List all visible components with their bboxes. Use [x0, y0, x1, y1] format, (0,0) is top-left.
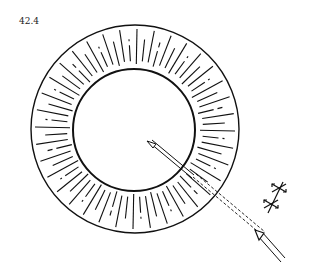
radial-line: [175, 61, 184, 74]
radial-line: [56, 145, 72, 149]
radial-line: [148, 31, 154, 62]
radial-line: [133, 194, 134, 229]
radial-line: [198, 154, 228, 166]
radial-line: [169, 43, 187, 73]
radial-line: [171, 210, 172, 212]
radial-line: [180, 54, 201, 78]
radial-line: [202, 142, 233, 148]
radial-line: [120, 30, 125, 62]
radial-line: [47, 160, 78, 177]
radial-line: [136, 29, 137, 64]
radial-line: [153, 51, 157, 66]
radial-line: [151, 192, 157, 216]
radial-line: [198, 110, 214, 114]
radial-line: [178, 182, 198, 207]
radial-line: [194, 190, 198, 194]
radial-line: [200, 130, 235, 131]
radial-line: [49, 104, 73, 111]
radial-line: [182, 67, 200, 84]
radial-line: [110, 211, 111, 216]
radial-line: [113, 191, 117, 206]
radial-line: [146, 196, 151, 228]
radial-line: [196, 159, 210, 166]
radial-line: [49, 77, 79, 95]
radial-line: [35, 127, 70, 128]
radial-line: [73, 64, 77, 68]
radial-line: [113, 42, 119, 66]
radial-line: [37, 110, 68, 116]
radial-line: [192, 82, 205, 91]
radial-striations: [35, 29, 235, 229]
outer-circle: [31, 25, 239, 233]
radial-line: [82, 200, 83, 202]
radial-line: [45, 134, 67, 135]
radial-line: [116, 196, 122, 227]
radial-line: [140, 197, 141, 213]
radial-line: [208, 79, 210, 80]
polarization-markers: [264, 182, 286, 213]
radial-line: [101, 52, 108, 67]
radial-line: [57, 172, 82, 192]
radial-line: [214, 168, 216, 169]
radial-line: [99, 47, 100, 49]
radial-line: [191, 163, 221, 181]
radial-line: [180, 176, 191, 188]
figure-canvas: 42.4: [0, 0, 325, 273]
radial-line: [203, 123, 225, 124]
radial-line: [192, 81, 223, 98]
radial-line: [60, 63, 84, 84]
radial-line: [70, 174, 88, 191]
radial-line: [188, 66, 213, 86]
radial-line: [52, 120, 68, 122]
radial-line: [125, 197, 127, 219]
radial-line: [197, 147, 221, 154]
radial-line: [87, 41, 104, 72]
radial-line: [187, 56, 188, 58]
radial-line: [48, 149, 53, 150]
ring-diagram: [0, 0, 325, 273]
radial-line: [79, 71, 90, 83]
radial-line: [197, 93, 217, 102]
radial-line: [60, 92, 74, 99]
radial-line: [69, 180, 90, 204]
radial-line: [36, 140, 68, 145]
radial-line: [54, 89, 56, 90]
radial-line: [99, 192, 111, 222]
radial-line: [53, 157, 73, 166]
radial-line: [218, 107, 223, 108]
radial-line: [86, 184, 95, 197]
radial-line: [129, 45, 130, 61]
radial-line: [83, 185, 101, 215]
radial-line: [65, 167, 78, 176]
inner-circle: [73, 69, 195, 191]
radial-line: [160, 36, 172, 66]
radial-line: [186, 174, 210, 195]
radial-line: [203, 136, 219, 138]
radial-line: [166, 186, 183, 217]
radial-line: [72, 51, 92, 76]
radial-line: [142, 40, 144, 62]
radial-line: [42, 93, 72, 105]
radial-line: [159, 43, 160, 48]
radial-line: [60, 178, 62, 179]
radial-line: [202, 114, 234, 119]
radial-line: [163, 191, 170, 206]
